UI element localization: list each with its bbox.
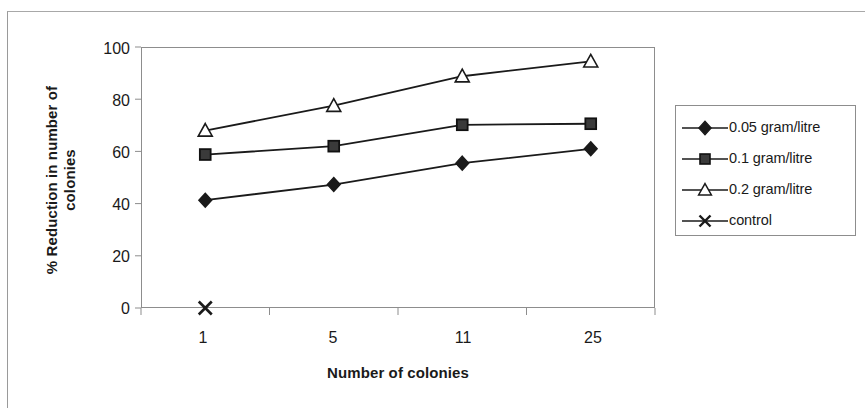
y-axis-title-line2: colonies	[61, 149, 78, 211]
legend-item-2[interactable]: 0.2 gram/litre	[676, 174, 855, 205]
x-axis-title: Number of colonies	[141, 364, 655, 381]
chart-legend: 0.05 gram/litre 0.1 gram/litre 0.2 gram/…	[675, 105, 856, 236]
filled-square-marker	[328, 141, 339, 152]
y-tick-label-60: 60	[86, 145, 130, 161]
filled-diamond-icon	[681, 119, 729, 137]
filled-diamond-marker	[199, 193, 212, 207]
filled-square-marker	[200, 149, 211, 160]
series-1	[200, 118, 596, 160]
x-axis-ticks	[141, 308, 655, 315]
x-tick-label-1: 1	[173, 330, 233, 346]
plot-canvas	[141, 47, 655, 308]
y-tick-label-80: 80	[86, 93, 130, 109]
x-tick-label-5: 5	[303, 330, 363, 346]
y-axis-title: % Reduction in number of colonies	[31, 35, 91, 325]
chart-figure: % Reduction in number of colonies 100 80…	[0, 0, 865, 408]
y-tick-label-40: 40	[86, 197, 130, 213]
filled-diamond-marker	[327, 178, 340, 192]
open-triangle-marker	[584, 54, 598, 67]
legend-item-1[interactable]: 0.1 gram/litre	[676, 143, 855, 174]
x-tick-label-11: 11	[433, 330, 493, 346]
filled-square-marker	[585, 118, 596, 129]
legend-label-2: 0.2 gram/litre	[729, 182, 812, 197]
y-axis-ticks	[135, 47, 141, 308]
series-3	[199, 302, 212, 315]
series-layer	[198, 54, 598, 314]
y-tick-label-100: 100	[86, 41, 130, 57]
legend-item-0[interactable]: 0.05 gram/litre	[676, 112, 855, 143]
cross-marker	[199, 302, 212, 315]
x-tick-label-25: 25	[563, 330, 623, 346]
legend-label-3: control	[729, 213, 772, 228]
series-line	[205, 124, 591, 155]
series-line	[205, 149, 591, 200]
filled-diamond-marker	[456, 156, 469, 170]
y-tick-label-20: 20	[86, 249, 130, 265]
legend-item-3[interactable]: control	[676, 205, 855, 236]
y-tick-label-0: 0	[86, 301, 130, 317]
open-triangle-icon	[681, 181, 729, 199]
cross-icon	[681, 212, 729, 230]
filled-square-marker	[457, 119, 468, 130]
y-axis-title-line1: % Reduction in number of	[43, 86, 60, 274]
legend-label-0: 0.05 gram/litre	[729, 120, 820, 135]
legend-label-1: 0.1 gram/litre	[729, 151, 812, 166]
filled-square-icon	[681, 150, 729, 168]
filled-diamond-marker	[584, 142, 597, 156]
series-line	[205, 61, 591, 130]
